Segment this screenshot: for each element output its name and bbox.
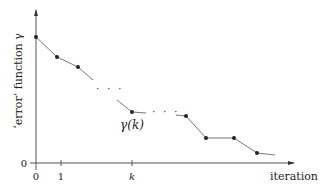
x-tick-label-1: 1 xyxy=(58,171,64,182)
data-point xyxy=(34,35,38,39)
data-point xyxy=(255,151,259,155)
y-tick-label-0: 0 xyxy=(21,158,27,169)
x-tick-label-0: 0 xyxy=(33,171,39,182)
data-point xyxy=(184,114,188,118)
gamma-k-annotation: γ(k) xyxy=(120,118,144,132)
ellipsis-2: · · · xyxy=(152,106,179,119)
ellipsis-1: · · · xyxy=(96,83,123,96)
error-function-diagram: 0 0 1 k iteration ‘error’ function γ · ·… xyxy=(0,0,330,190)
data-point xyxy=(204,136,208,140)
y-axis-label: ‘error’ function γ xyxy=(12,33,25,129)
data-point xyxy=(76,65,80,69)
x-tick-label-k: k xyxy=(129,171,135,182)
data-point-k xyxy=(130,110,134,114)
curve-segment-end xyxy=(176,115,275,155)
curve-segment-start xyxy=(36,37,93,80)
data-point xyxy=(55,55,59,59)
x-axis-label: iteration xyxy=(270,170,318,183)
data-point xyxy=(232,136,236,140)
diagram-svg: 0 0 1 k iteration ‘error’ function γ · ·… xyxy=(0,0,330,190)
